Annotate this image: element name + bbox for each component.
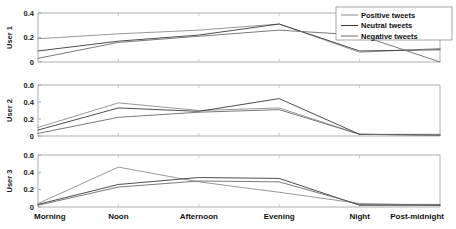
series-line-negative-tweets — [38, 181, 440, 205]
panel-user-1: 00.20.4User 1 Positive tweetsNeutral twe… — [0, 0, 456, 70]
y-tick-label: 0 — [30, 58, 34, 67]
y-tick-label: 0 — [30, 203, 34, 212]
tweet-sentiment-figure: 00.20.4User 1 Positive tweetsNeutral twe… — [0, 0, 456, 229]
series-line-positive-tweets — [38, 167, 440, 205]
panel-user-2-labels: 00.20.40.6User 2 — [5, 81, 35, 141]
series-line-positive-tweets — [38, 103, 440, 134]
y-tick-label: 0.2 — [24, 33, 34, 42]
x-tick-label-noon: Noon — [108, 212, 129, 221]
panel-user-3-series — [38, 167, 440, 205]
y-tick-label: 0.6 — [24, 151, 34, 160]
x-tick-label-post-midnight: Post-midnight — [390, 212, 444, 221]
legend-label-neutral-tweets: Neutral tweets — [361, 21, 412, 30]
series-line-neutral-tweets — [38, 99, 440, 136]
y-tick-label: 0.4 — [24, 9, 35, 18]
y-tick-label: 0.6 — [24, 81, 34, 90]
panel-user-3-labels: 00.20.40.6User 3 — [5, 151, 35, 212]
y-tick-label: 0.2 — [24, 115, 34, 124]
y-tick-label: 0.4 — [24, 98, 35, 107]
x-axis-tick-labels: MorningNoonAfternoonEveningNightPost-mid… — [34, 212, 444, 221]
legend-label-negative-tweets: Negative tweets — [361, 32, 418, 41]
panel-user-1-plot: 00.20.4User 1 Positive tweetsNeutral twe… — [0, 0, 456, 70]
y-tick-label: 0 — [30, 132, 34, 141]
y-tick-label: 0.4 — [24, 168, 35, 177]
panel-user-2-plot: 00.20.40.6User 2 — [0, 72, 456, 144]
y-axis-label: User 1 — [5, 26, 14, 49]
legend: Positive tweetsNeutral tweetsNegative tw… — [336, 7, 452, 41]
x-tick-label-evening: Evening — [264, 212, 295, 221]
y-axis-label: User 3 — [5, 170, 14, 193]
panel-user-2-series — [38, 99, 440, 136]
x-tick-label-night: Night — [349, 212, 370, 221]
panel-user-3: 00.20.40.6User 3 MorningNoonAfternoonEve… — [0, 146, 456, 229]
x-tick-label-afternoon: Afternoon — [180, 212, 218, 221]
panel-user-3-plot: 00.20.40.6User 3 MorningNoonAfternoonEve… — [0, 146, 456, 229]
y-axis-label: User 2 — [5, 99, 14, 122]
x-tick-label-morning: Morning — [34, 212, 66, 221]
panel-user-2: 00.20.40.6User 2 — [0, 72, 456, 144]
y-tick-label: 0.2 — [24, 185, 34, 194]
legend-label-positive-tweets: Positive tweets — [361, 11, 415, 20]
panel-user-1-labels: 00.20.4User 1 — [5, 9, 35, 67]
